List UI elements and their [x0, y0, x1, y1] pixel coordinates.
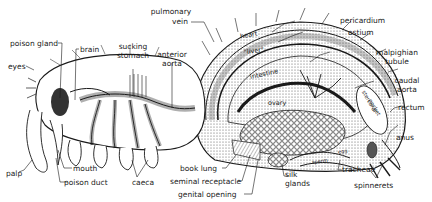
label-palp: palp: [6, 170, 22, 178]
inner-label-ovary: ovary: [268, 100, 286, 107]
label-mouth: mouth: [73, 165, 97, 173]
label-spinnerets: spinnerets: [354, 182, 393, 190]
abdomen: [195, 8, 406, 178]
label-sucking-stomach-line2: stomach: [113, 52, 153, 60]
label-silk-glands-line1: silk: [285, 171, 297, 179]
label-book-lung: book lung: [180, 165, 217, 173]
label-caeca: caeca: [132, 179, 154, 187]
label-brain: brain: [80, 46, 99, 54]
label-tracheae: tracheae: [342, 166, 375, 174]
label-poison-duct: poison duct: [64, 179, 108, 187]
label-rectum: rectum: [398, 104, 425, 112]
label-genital-opening: genital opening: [178, 191, 237, 199]
spider-anatomy-diagram: poison gland brain eyes sucking stomach …: [0, 0, 432, 202]
label-seminal-receptacle: seminal receptacle: [170, 178, 241, 186]
label-silk-glands-line2: glands: [285, 180, 310, 188]
label-anus: anus: [396, 134, 414, 142]
label-eyes: eyes: [8, 63, 26, 71]
label-pulmonary-vein-line1: pulmonary: [146, 8, 196, 16]
inner-label-egg: egg: [338, 147, 348, 155]
label-malpighian-tubule-line2: tubule: [372, 58, 422, 66]
label-anterior-aorta-line1: anterior: [152, 51, 192, 59]
label-caudal-aorta-line2: aorta: [390, 86, 424, 94]
label-poison-gland: poison gland: [10, 40, 58, 48]
label-pericardium: pericardium: [340, 17, 385, 25]
label-caudal-aorta-line1: caudal: [390, 77, 424, 85]
label-ostium: ostium: [348, 29, 374, 37]
label-malpighian-tubule-line1: malpighian: [372, 49, 422, 57]
label-anterior-aorta-line2: aorta: [152, 60, 192, 68]
label-pulmonary-vein-line2: vein: [172, 18, 188, 26]
label-sucking-stomach-line1: sucking: [113, 43, 153, 51]
